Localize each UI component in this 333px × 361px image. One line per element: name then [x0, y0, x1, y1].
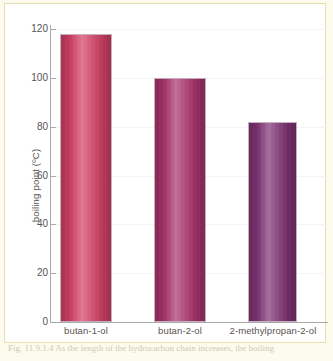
- y-tick-mark-40: [50, 224, 56, 225]
- y-tick-label-20: 20: [37, 267, 48, 279]
- bar-texture: [155, 79, 205, 321]
- y-tick-label-80: 80: [37, 121, 48, 133]
- y-tick-mark-80: [50, 127, 56, 128]
- y-tick-80: 80: [16, 121, 56, 133]
- bar-texture: [61, 35, 111, 321]
- y-tick-60: 60: [16, 170, 56, 182]
- figure-caption: Fig. 11.9.1.4 As the length of the hydro…: [8, 345, 274, 353]
- y-tick-mark-20: [50, 273, 56, 274]
- y-tick-label-100: 100: [31, 72, 48, 84]
- y-tick-label-40: 40: [37, 218, 48, 230]
- bar-chart: boiling point (ºC) 120 100 80 60 40 20: [6, 5, 324, 341]
- figure-page: boiling point (ºC) 120 100 80 60 40 20: [0, 0, 333, 361]
- bar-texture: [249, 123, 296, 321]
- figure-caption-strip: Fig. 11.9.1.4 As the length of the hydro…: [0, 345, 333, 361]
- x-axis-line: [50, 322, 328, 323]
- y-tick-20: 20: [16, 267, 56, 279]
- x-label-2-methylpropan-2-ol: 2-methylpropan-2-ol: [213, 325, 333, 336]
- bar-butan-2-ol[interactable]: [154, 78, 206, 322]
- y-tick-40: 40: [16, 218, 56, 230]
- y-tick-100: 100: [16, 72, 56, 84]
- bar-butan-1-ol[interactable]: [60, 34, 112, 322]
- y-tick-120: 120: [16, 23, 56, 35]
- gridline-120: [51, 29, 328, 30]
- y-tick-mark-100: [50, 78, 56, 79]
- y-tick-mark-120: [50, 29, 56, 30]
- y-tick-mark-0: [50, 322, 56, 323]
- y-tick-label-60: 60: [37, 170, 48, 182]
- bar-2-methylpropan-2-ol[interactable]: [248, 122, 297, 322]
- y-tick-mark-60: [50, 176, 56, 177]
- x-label-butan-1-ol: butan-1-ol: [46, 325, 126, 336]
- y-tick-label-120: 120: [31, 23, 48, 35]
- x-label-butan-2-ol: butan-2-ol: [140, 325, 220, 336]
